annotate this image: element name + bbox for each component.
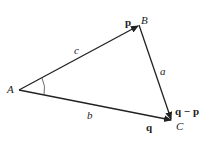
triangle-svg — [0, 0, 205, 148]
side-b-vector-q — [19, 90, 171, 120]
vector-q-label: q — [146, 122, 152, 133]
vertex-c-label: C — [176, 121, 183, 132]
vector-triangle-diagram: A B C c a b p q − p q — [0, 0, 205, 148]
vertex-a-label: A — [7, 84, 14, 95]
vertex-b-label: B — [141, 15, 148, 26]
vector-q-minus-p-label: q − p — [175, 106, 199, 117]
side-a-vector-q-minus-p — [139, 25, 171, 119]
side-a-label: a — [160, 66, 166, 77]
side-c-vector-p — [19, 26, 138, 90]
angle-arc-a — [42, 78, 45, 95]
side-b-label: b — [87, 110, 93, 121]
vector-p-label: p — [125, 17, 131, 28]
side-c-label: c — [74, 45, 79, 56]
